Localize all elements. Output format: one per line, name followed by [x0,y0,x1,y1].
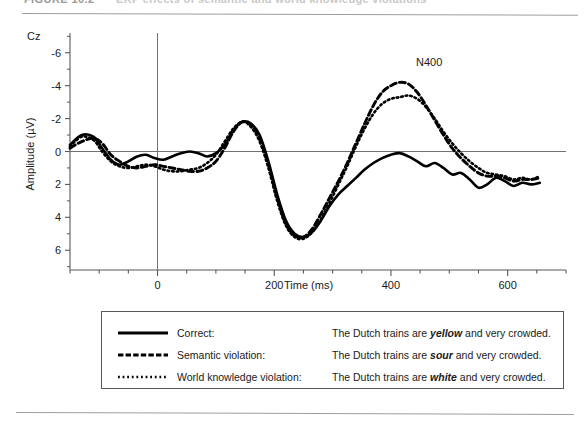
y-tick-label: -2 [51,113,61,125]
critical-word: sour [430,349,453,361]
x-tick-label: 0 [154,279,160,291]
y-tick-label: -4 [51,80,61,92]
plot-canvas: -6-4-202460200400600 [0,0,588,300]
y-tick-label: 4 [55,211,61,223]
electrode-label: Cz [27,30,40,42]
legend-row: Correct:The Dutch trains are yellow and … [102,322,565,344]
erp-plot: -6-4-202460200400600 [0,0,588,300]
legend-swatch-dashed-icon [118,349,168,361]
y-axis-label: Amplitude (µV) [24,118,36,191]
legend-example-sentence: The Dutch trains are sour and very crowd… [332,349,542,361]
critical-word: yellow [430,327,462,339]
legend-example-sentence: The Dutch trains are white and very crow… [332,371,546,383]
legend-condition-name: Correct: [177,327,332,339]
y-tick-label: 0 [55,146,61,158]
x-tick-label: 200 [265,279,283,291]
legend-row: World knowledge violation:The Dutch trai… [102,366,565,388]
series-line [70,121,540,237]
critical-word: white [430,371,457,383]
y-tick-label: 2 [55,178,61,190]
legend-swatch-dotted-icon [118,371,168,383]
legend: Correct:The Dutch trains are yellow and … [101,311,564,389]
x-tick-label: 400 [382,279,400,291]
x-axis-label: Time (ms) [284,279,333,291]
legend-row: Semantic violation:The Dutch trains are … [102,344,565,366]
footer-divider [16,412,574,415]
legend-condition-name: World knowledge violation: [177,371,332,383]
legend-condition-name: Semantic violation: [177,349,332,361]
y-tick-label: -6 [51,47,61,59]
legend-example-sentence: The Dutch trains are yellow and very cro… [332,327,551,339]
legend-swatch-solid-icon [118,327,168,339]
y-tick-label: 6 [55,244,61,256]
n400-annotation: N400 [416,56,442,68]
x-tick-label: 600 [498,279,516,291]
